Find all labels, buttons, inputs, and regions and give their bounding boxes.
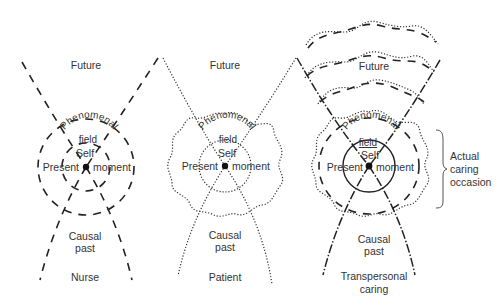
label-field: field (79, 134, 97, 145)
label-self: Self (76, 147, 94, 159)
past-cone-left (323, 166, 369, 275)
label-self: Self (361, 149, 379, 161)
label-past: past (215, 241, 235, 253)
transpersonal-caring-diagram: Future Phenomenal field Self Present mom… (0, 0, 502, 306)
label-future: Future (359, 60, 390, 72)
past-cone-left (178, 166, 225, 276)
panel-transpersonal: Future Phenomenal field Self Present mom… (297, 21, 492, 295)
curly-brace-icon (436, 130, 447, 208)
label-phenomenal: Phenomenal (340, 109, 402, 132)
label-field: field (219, 134, 237, 145)
panel-patient: Future Phenomenal field Self Present mom… (163, 58, 296, 284)
label-actual: Actual (450, 150, 479, 162)
label-self: Self (218, 147, 236, 159)
label-occasion: occasion (450, 176, 492, 188)
label-future: Future (210, 59, 241, 71)
past-cone-right (225, 166, 272, 284)
caption-nurse: Nurse (71, 271, 99, 283)
label-past: past (75, 242, 95, 254)
past-cone-right (369, 166, 415, 275)
label-moment: moment (232, 160, 270, 172)
label-field: field (359, 137, 377, 148)
label-causal: Causal (358, 233, 391, 245)
panel-nurse: Future Phenomenal field Self Present mom… (22, 58, 158, 283)
label-future: Future (71, 59, 102, 71)
label-present: Present (43, 161, 79, 173)
label-causal: Causal (69, 230, 102, 242)
label-present: Present (327, 161, 363, 173)
label-past: past (364, 245, 384, 257)
present-moment-point (366, 163, 373, 170)
present-moment-point (222, 163, 228, 169)
caption-patient: Patient (209, 271, 242, 283)
label-present: Present (182, 160, 218, 172)
past-cone-right (86, 167, 132, 280)
label-phenomenal: Phenomenal (196, 109, 258, 132)
caption-transpersonal: Transpersonal (341, 270, 408, 282)
label-moment: moment (93, 161, 131, 173)
caption-caring: caring (360, 283, 389, 295)
label-moment: moment (376, 161, 414, 173)
label-causal: Causal (209, 229, 242, 241)
label-caring: caring (450, 163, 479, 175)
past-cone-left (40, 167, 86, 280)
present-moment-point (83, 164, 89, 170)
